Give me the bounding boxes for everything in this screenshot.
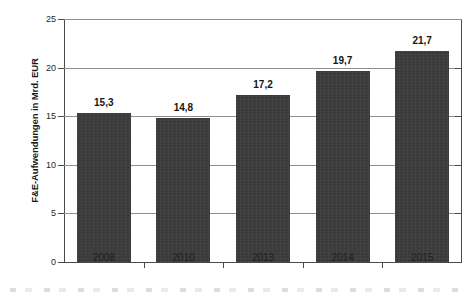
y-axis-tick-label: 20 <box>16 63 56 73</box>
x-axis-category-label: 2013 <box>233 252 293 263</box>
x-axis-category-label: 2015 <box>392 252 452 263</box>
y-axis-tick <box>58 262 64 263</box>
y-axis-tick-label: 0 <box>16 257 56 267</box>
bar-value-label: 19,7 <box>313 55 373 66</box>
y-axis-tick-right <box>455 165 462 166</box>
grid-line <box>64 19 462 20</box>
bar-value-label: 15,3 <box>74 97 134 108</box>
y-axis-tick-right <box>455 116 462 117</box>
bar-value-label: 14,8 <box>153 102 213 113</box>
y-axis-spine-left <box>64 19 65 262</box>
y-axis-tick <box>58 68 64 69</box>
x-axis-tick <box>223 262 224 268</box>
bar <box>316 71 370 262</box>
y-axis-tick-label: 15 <box>16 111 56 121</box>
y-axis-tick-right <box>455 68 462 69</box>
bar <box>236 95 290 262</box>
x-axis-tick <box>144 262 145 268</box>
y-axis-tick <box>58 165 64 166</box>
bar <box>77 113 131 262</box>
x-axis-tick <box>382 262 383 268</box>
x-axis-category-label: 2010 <box>153 252 213 263</box>
y-axis-tick <box>58 213 64 214</box>
scan-artifact <box>10 288 462 292</box>
bar-value-label: 17,2 <box>233 79 293 90</box>
y-axis-tick-right <box>455 213 462 214</box>
bar <box>395 51 449 262</box>
plot-area: 15,314,817,219,721,7 <box>64 19 462 262</box>
y-axis-spine-right <box>461 19 462 262</box>
x-axis-category-label: 2014 <box>313 252 373 263</box>
x-axis-category-label: 2008 <box>74 252 134 263</box>
y-axis-tick-label: 5 <box>16 208 56 218</box>
bar-value-label: 21,7 <box>392 35 452 46</box>
y-axis-tick-label: 10 <box>16 160 56 170</box>
y-axis-tick <box>58 116 64 117</box>
x-axis-tick <box>303 262 304 268</box>
y-axis-tick <box>58 19 64 20</box>
bar-chart-figure: F&E-Aufwendungen in Mrd. EUR 0510152025 … <box>0 0 476 298</box>
bar <box>156 118 210 262</box>
y-axis-tick-label: 25 <box>16 14 56 24</box>
